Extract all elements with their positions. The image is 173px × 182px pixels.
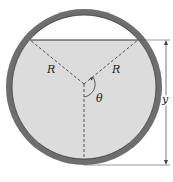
label-radius-left: R [46, 63, 55, 76]
label-depth: y [161, 93, 169, 106]
label-radius-right: R [111, 63, 120, 76]
arrow-down-icon [164, 160, 168, 165]
arrow-up-icon [164, 40, 168, 45]
label-angle: θ [96, 92, 103, 105]
partially-filled-pipe-diagram: R R θ y [0, 0, 173, 182]
